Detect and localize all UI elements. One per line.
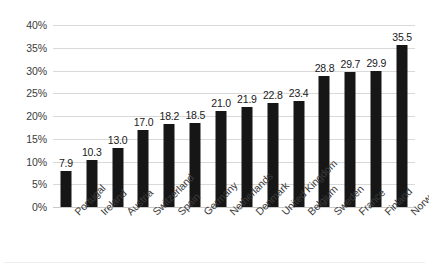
bar-value-label: 10.3 — [82, 146, 102, 158]
x-axis-tick-label: Portugal — [72, 209, 80, 217]
bar-value-label: 17.0 — [134, 116, 154, 128]
x-axis-tick-label: Netherlands — [227, 209, 235, 217]
bar-group: 17.0 — [131, 25, 157, 207]
x-axis-tick-label: Austria — [124, 209, 132, 217]
bar — [371, 71, 382, 207]
y-axis-tick-label: 0% — [32, 201, 47, 213]
bar-value-label: 29.9 — [366, 57, 386, 69]
x-axis-tick-label: Spain — [175, 209, 183, 217]
bar-value-label: 18.5 — [185, 109, 205, 121]
x-axis-tick-label: Germany — [201, 209, 209, 217]
y-axis-tick-label: 30% — [26, 65, 47, 77]
y-axis-tick-label: 25% — [26, 87, 47, 99]
bar — [397, 45, 408, 207]
x-axis-tick-label: Finland — [382, 209, 390, 217]
x-axis-tick-label: France — [356, 209, 364, 217]
bar — [60, 171, 71, 207]
x-axis-tick-label: Norway — [408, 209, 416, 217]
x-axis-tick-label: Belgium — [305, 209, 313, 217]
y-axis-tick-label: 20% — [26, 110, 47, 122]
bar-group: 7.9 — [53, 25, 79, 207]
bar-group: 10.3 — [79, 25, 105, 207]
y-axis-tick-label: 5% — [32, 178, 47, 190]
bar-group: 29.9 — [363, 25, 389, 207]
y-axis: 0%5%10%15%20%25%30%35%40% — [0, 25, 47, 207]
bar-group: 35.5 — [389, 25, 415, 207]
x-axis-tick-label: Sweden — [331, 209, 339, 217]
bar-value-label: 22.8 — [263, 89, 283, 101]
bar-value-label: 18.2 — [160, 110, 180, 122]
bar-value-label: 21.9 — [237, 93, 257, 105]
bar-value-label: 7.9 — [59, 157, 73, 169]
y-axis-tick-label: 15% — [26, 133, 47, 145]
y-axis-tick-label: 35% — [26, 42, 47, 54]
bar-value-label: 35.5 — [392, 31, 412, 43]
bar-chart: 0%5%10%15%20%25%30%35%40% 7.910.313.017.… — [0, 0, 429, 274]
bar-value-label: 23.4 — [289, 87, 309, 99]
y-axis-tick-label: 40% — [26, 19, 47, 31]
x-axis-tick-label: Switzerland — [150, 209, 158, 217]
x-axis-tick-label: United Kingdom — [279, 209, 287, 217]
bar-group: 13.0 — [105, 25, 131, 207]
y-axis-tick-label: 10% — [26, 156, 47, 168]
bar-value-label: 21.0 — [211, 97, 231, 109]
x-axis-tick-label: Ireland — [98, 209, 106, 217]
bar-group: 29.7 — [337, 25, 363, 207]
bar-value-label: 13.0 — [108, 134, 128, 146]
bar-value-label: 29.7 — [341, 58, 361, 70]
bottom-rule — [4, 262, 425, 263]
x-axis-tick-label: Denmark — [253, 209, 261, 217]
plot-area: 7.910.313.017.018.218.521.021.922.823.42… — [53, 25, 415, 207]
bar-value-label: 28.8 — [315, 62, 335, 74]
